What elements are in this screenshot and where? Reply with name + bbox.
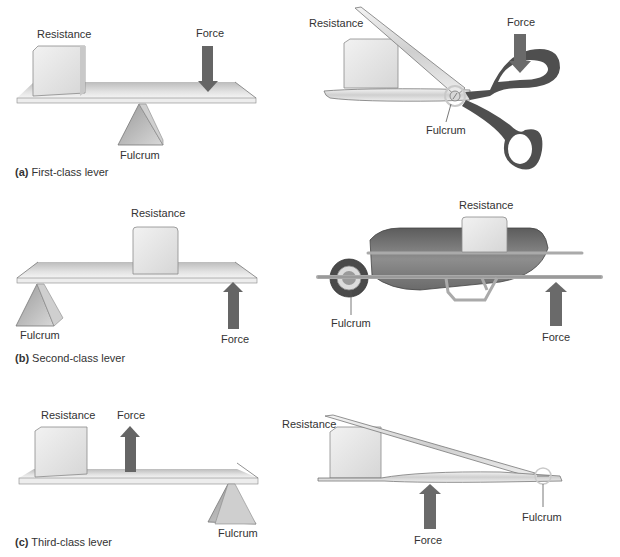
lever-a-resistance-label: Resistance [37,28,91,40]
lever-a-fulcrum-label: Fulcrum [120,149,160,161]
resistance-block [35,427,87,477]
panel-second-class-lever: Resistance Fulcrum Force Resistance Fulc… [0,190,620,380]
lever-c-resistance-label: Resistance [41,409,95,421]
lever-b-fulcrum-label: Fulcrum [20,329,60,341]
scissors-fulcrum-label: Fulcrum [426,124,466,136]
wheelbarrow-illustration [318,217,601,326]
wheelbarrow-force-label: Force [542,331,570,343]
panel-first-class-lever: Resistance Force Fulcrum Resistance Forc… [0,0,620,190]
lever-a-force-label: Force [196,27,224,39]
resistance-block [33,46,85,96]
third-class-lever-diagram [0,380,620,557]
lever-b-force-label: Force [221,333,249,345]
caption-a-text: First-class lever [32,166,109,178]
wheelbarrow-fulcrum-label: Fulcrum [331,317,371,329]
tweezers-resistance-label: Resistance [282,418,336,430]
fulcrum-triangle [118,104,163,145]
scissors-illustration [324,7,560,170]
fulcrum-pointer-line [446,104,451,122]
force-arrow-up [120,426,140,472]
scissors-resistance-label: Resistance [309,17,363,29]
lever-c-force-label: Force [117,409,145,421]
caption-c-letter: (c) [15,536,28,548]
caption-a: (a) First-class lever [15,166,109,178]
lever-c-fulcrum-label: Fulcrum [218,527,258,539]
caption-c: (c) Third-class lever [15,536,112,548]
tweezers-force-arrow [419,484,441,529]
caption-b-text: Second-class lever [32,352,125,364]
lever-b-resistance-label: Resistance [131,207,185,219]
caption-b-letter: (b) [15,352,29,364]
fulcrum-triangle [16,284,63,326]
caption-a-letter: (a) [15,166,28,178]
resistance-block [133,227,178,274]
panel-third-class-lever: Resistance Force Fulcrum Resistance Forc… [0,380,620,557]
tweezers-fulcrum-label: Fulcrum [522,511,562,523]
wheelbarrow-force-arrow [545,282,567,326]
tweezers-force-label: Force [414,534,442,546]
wheelbarrow-resistance-label: Resistance [459,199,513,211]
fulcrum-triangle [208,484,256,524]
caption-b: (b) Second-class lever [15,352,125,364]
scissors-force-label: Force [507,16,535,28]
caption-c-text: Third-class lever [31,536,112,548]
force-arrow-up [223,282,243,329]
